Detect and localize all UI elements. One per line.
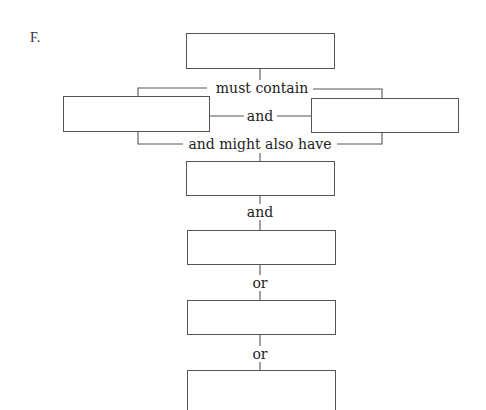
or-second-label: or [249,346,270,362]
right-box[interactable] [311,98,459,133]
and-middle-label: and [244,108,276,124]
top-box[interactable] [186,33,335,69]
center-box-2[interactable] [187,230,336,265]
might-also-have-label: and might also have [185,136,334,152]
must-contain-label: must contain [213,80,311,96]
center-box-4[interactable] [187,370,336,410]
and-lower-label: and [244,204,276,220]
section-letter: F. [30,30,40,46]
center-box-3[interactable] [187,300,336,335]
left-box[interactable] [63,96,210,132]
center-box-1[interactable] [186,161,335,196]
or-first-label: or [249,275,270,291]
